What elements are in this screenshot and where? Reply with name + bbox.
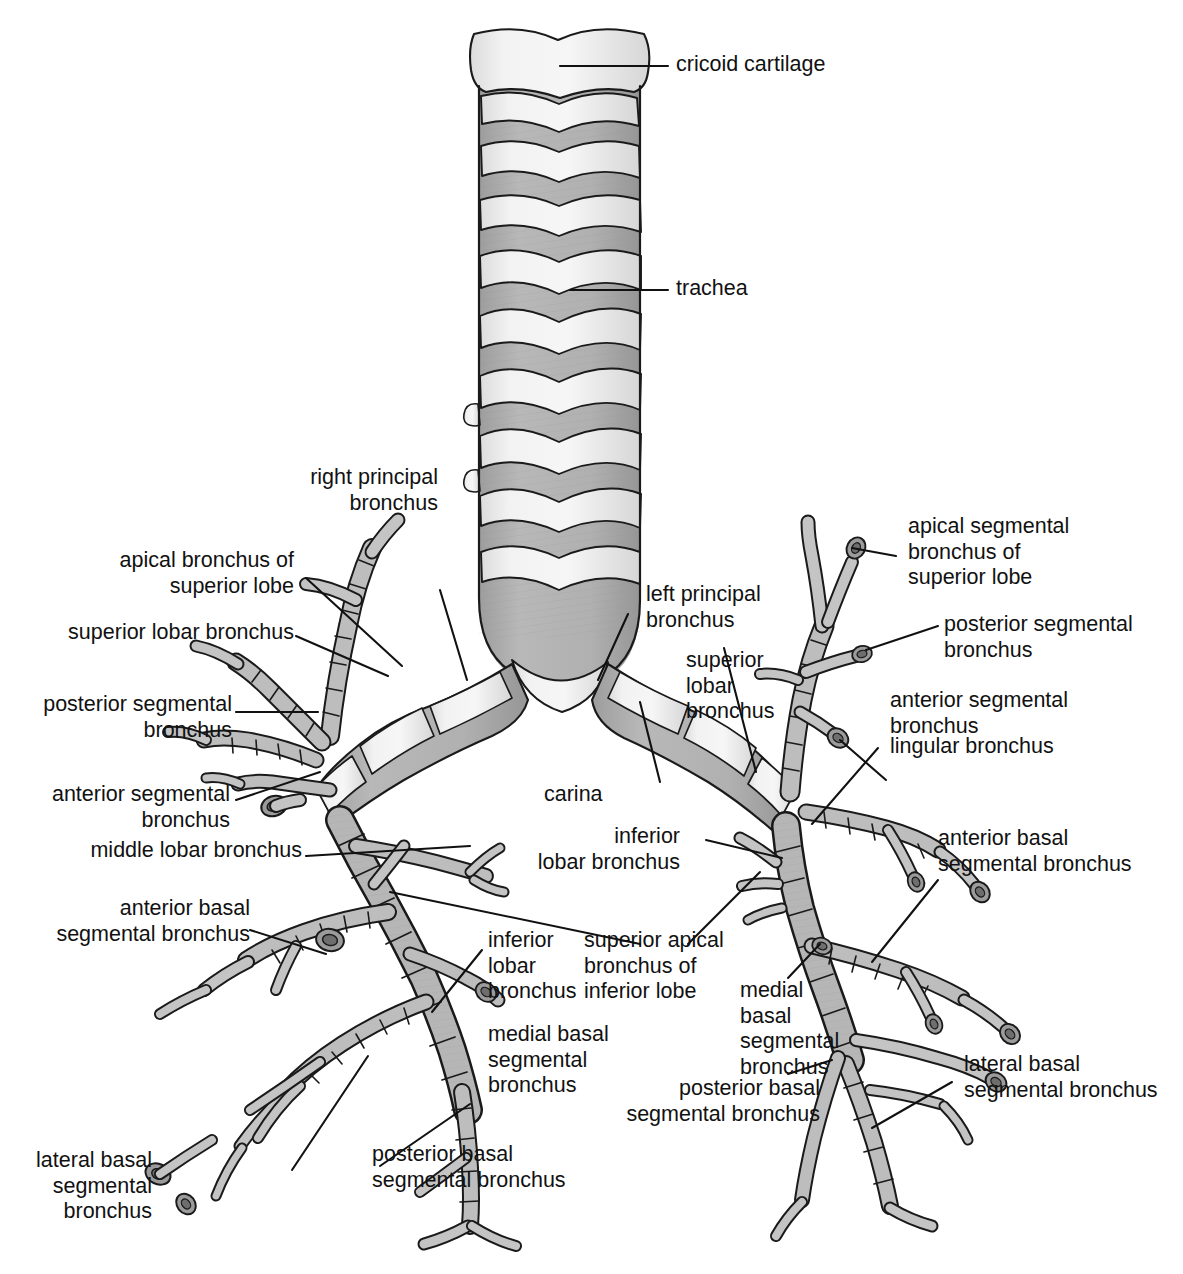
- label-medial-basal-segmental-bronchus-left: medial basal segmental bronchus: [740, 978, 832, 1080]
- label-cricoid-cartilage: cricoid cartilage: [676, 52, 825, 78]
- label-posterior-basal-segmental-bronchus-right: posterior basal segmental bronchus: [372, 1142, 632, 1193]
- right-principal-bronchus-shape: [316, 664, 528, 826]
- label-superior-lobar-bronchus-right: superior lobar bronchus: [16, 620, 294, 646]
- diagram-canvas: cricoid cartilage trachea right principa…: [0, 0, 1183, 1274]
- label-carina: carina: [544, 782, 603, 808]
- label-posterior-segmental-bronchus-right: posterior segmental bronchus: [0, 692, 232, 743]
- label-apical-bronchus-of-superior-lobe: apical bronchus of superior lobe: [54, 548, 294, 599]
- label-apical-segmental-bronchus-of-superior-lobe: apical segmental bronchus of superior lo…: [908, 514, 1138, 591]
- label-anterior-segmental-bronchus-left: anterior segmental bronchus: [890, 688, 1120, 739]
- label-lateral-basal-segmental-bronchus-left: lateral basal segmental bronchus: [964, 1052, 1179, 1103]
- label-superior-lobar-bronchus-left: superior lobar bronchus: [686, 648, 806, 725]
- label-middle-lobar-bronchus: middle lobar bronchus: [40, 838, 302, 864]
- label-posterior-segmental-bronchus-left: posterior segmental bronchus: [944, 612, 1176, 663]
- label-posterior-basal-segmental-bronchus-left: posterior basal segmental bronchus: [570, 1076, 820, 1127]
- label-inferior-lobar-bronchus-left: inferior lobar bronchus: [520, 824, 680, 875]
- label-anterior-segmental-bronchus-right: anterior segmental bronchus: [0, 782, 230, 833]
- label-lingular-bronchus: lingular bronchus: [890, 734, 1054, 760]
- label-superior-apical-bronchus-of-inferior-lobe: superior apical bronchus of inferior lob…: [584, 928, 734, 1005]
- label-left-principal-bronchus: left principal bronchus: [646, 582, 816, 633]
- label-anterior-basal-segmental-bronchus-right: anterior basal segmental bronchus: [22, 896, 250, 947]
- label-trachea: trachea: [676, 276, 748, 302]
- trachea-shape: [464, 29, 650, 690]
- label-anterior-basal-segmental-bronchus-left: anterior basal segmental bronchus: [938, 826, 1176, 877]
- label-lateral-basal-segmental-bronchus-right: lateral basal segmental bronchus: [0, 1148, 152, 1225]
- label-right-principal-bronchus: right principal bronchus: [258, 465, 438, 516]
